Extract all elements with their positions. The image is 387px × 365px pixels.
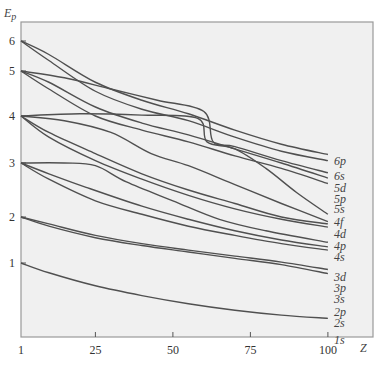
x-tick-label: 1 — [18, 343, 24, 357]
y-tick-label: 1 — [9, 256, 15, 270]
label-4s: 4s — [334, 250, 345, 264]
x-tick-label: 25 — [89, 343, 101, 357]
label-1s: 1s — [334, 333, 345, 347]
label-6p: 6p — [334, 154, 346, 168]
x-axis-label: Z — [360, 341, 367, 355]
y-tick-label: 4 — [9, 109, 15, 123]
label-3s: 3s — [333, 292, 345, 306]
y-tick-label: 5 — [9, 64, 15, 78]
x-tick-label: 50 — [167, 343, 179, 357]
x-tick-label: 75 — [244, 343, 256, 357]
y-tick-label: 6 — [9, 34, 15, 48]
y-tick-label: 3 — [9, 156, 15, 170]
label-2s: 2s — [334, 316, 345, 330]
label-5s: 5s — [334, 202, 345, 216]
y-tick-label: 2 — [9, 210, 15, 224]
curve-labels: 6p6s5d5p5s4f4d4p4s3d3p3s2p2s1s — [333, 154, 347, 347]
y-axis-label: Ep — [3, 6, 16, 22]
energy-level-chart: 123456 1255075100 6p6s5d5p5s4f4d4p4s3d3p… — [0, 0, 387, 365]
